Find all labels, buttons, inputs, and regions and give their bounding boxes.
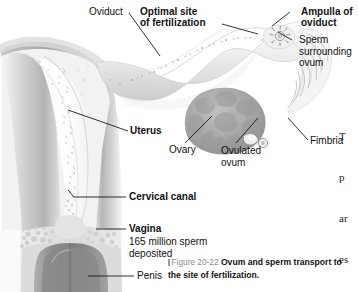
label-ovary: Ovary — [169, 145, 196, 156]
label-ovulated-ovum: Ovulated ovum — [221, 145, 261, 168]
label-sperm-surrounding-ovum: Sperm surrounding ovum — [299, 34, 352, 69]
label-ampulla-of-oviduct: Ampulla of oviduct — [301, 7, 353, 28]
figure-panel: Oviduct Optimal site of fertilization Am… — [0, 0, 358, 292]
label-optimal-site-of-fertilization: Optimal site of fertilization — [140, 7, 206, 28]
body-col-line: T — [339, 130, 358, 144]
label-cervical-canal: Cervical canal — [129, 192, 196, 203]
body-col-line: es — [339, 253, 358, 267]
label-penis: Penis — [137, 271, 162, 282]
label-uterus: Uterus — [130, 126, 162, 137]
body-col-line: p — [339, 171, 358, 185]
body-text-column: T p ar es ab th da m ic ca — [339, 103, 358, 292]
label-vagina: Vagina — [129, 224, 161, 235]
label-oviduct: Oviduct — [89, 7, 123, 18]
caption-marker-icon — [168, 259, 170, 266]
figure-number: Figure 20-22 — [172, 257, 219, 267]
figure-caption: Figure 20-22 Ovum and sperm transport to… — [168, 256, 343, 281]
body-col-line: ar — [339, 212, 358, 226]
